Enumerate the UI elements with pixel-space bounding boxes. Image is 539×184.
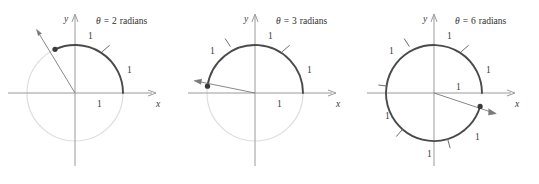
arc-label-lower-right: 1	[475, 132, 480, 142]
theta-caption: θ=2radians	[96, 16, 148, 26]
theta-symbol: θ	[455, 16, 460, 26]
arc-tick-4	[396, 129, 402, 136]
arc-tick-1	[102, 45, 110, 52]
terminal-point	[205, 84, 210, 89]
y-axis-name: y	[243, 14, 249, 24]
theta-caption: θ=6radians	[455, 16, 507, 26]
arc-tick-2	[404, 39, 409, 47]
x-axis-unit-label: 1	[456, 82, 461, 92]
panel-theta-2: 1 1 1 x y θ=2radians	[0, 0, 180, 184]
theta-equals: =	[284, 16, 289, 26]
panel-3-canvas: 1 1 1 1 1 1 1 x y θ=6radians	[359, 0, 539, 184]
terminal-ray-arrow-icon	[488, 109, 496, 115]
panel-2-canvas: 1 1 1 1 x y θ=3radians	[180, 0, 360, 184]
arc-label-top: 1	[268, 31, 273, 41]
theta-symbol: θ	[276, 16, 281, 26]
terminal-ray-arrow-icon	[37, 30, 42, 36]
arc-label-lower-left: 1	[385, 111, 390, 121]
theta-equals: =	[463, 16, 468, 26]
panel-theta-6: 1 1 1 1 1 1 1 x y θ=6radians	[359, 0, 539, 184]
panel-1-canvas: 1 1 1 x y θ=2radians	[0, 0, 180, 184]
terminal-ray-arrow-icon	[194, 79, 202, 84]
y-axis-name: y	[422, 14, 428, 24]
theta-caption: θ=3radians	[276, 16, 328, 26]
theta-equals: =	[104, 16, 109, 26]
arc-label-top: 1	[447, 31, 452, 41]
theta-units: radians	[120, 16, 148, 26]
arc-label-right: 1	[127, 65, 132, 75]
theta-value: 3	[292, 16, 297, 26]
y-axis-name: y	[63, 14, 69, 24]
arc-tick-1	[461, 45, 469, 52]
panel-theta-3: 1 1 1 1 x y θ=3radians	[180, 0, 360, 184]
arc-label-upper-left: 1	[389, 46, 394, 56]
arc-tick-5	[448, 139, 451, 148]
theta-units: radians	[300, 16, 328, 26]
radian-measure-figure: 1 1 1 x y θ=2radians 1 1	[0, 0, 539, 184]
terminal-ray	[38, 32, 75, 93]
arc-label-right: 1	[307, 65, 312, 75]
arc-label-bottom: 1	[427, 149, 432, 159]
x-axis-name: x	[155, 99, 161, 109]
terminal-ray	[434, 93, 494, 113]
highlighted-arc	[55, 45, 123, 93]
theta-value: 6	[471, 16, 476, 26]
arc-tick-1	[282, 45, 290, 52]
theta-units: radians	[479, 16, 507, 26]
arc-label-left: 1	[210, 46, 215, 56]
terminal-ray	[196, 81, 255, 93]
arc-label-top: 1	[88, 31, 93, 41]
terminal-point	[52, 47, 57, 52]
x-axis-name: x	[514, 99, 520, 109]
x-axis-unit-label: 1	[97, 99, 102, 109]
x-axis-name: x	[335, 99, 341, 109]
terminal-point	[478, 104, 483, 109]
arc-label-upper-right: 1	[486, 65, 491, 75]
theta-value: 2	[112, 16, 117, 26]
arc-tick-2	[225, 39, 230, 47]
x-axis-unit-label: 1	[277, 99, 282, 109]
theta-symbol: θ	[96, 16, 101, 26]
